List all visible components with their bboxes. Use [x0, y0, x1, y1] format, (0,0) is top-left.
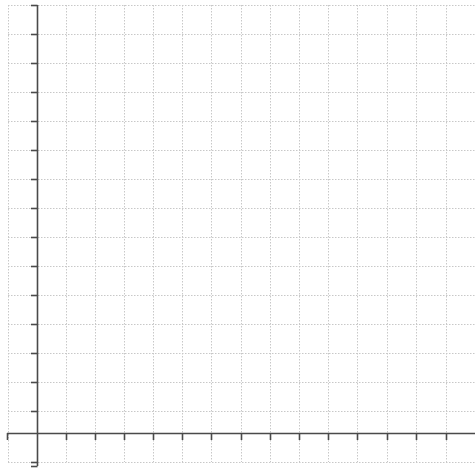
grid-lines	[8, 5, 475, 463]
coordinate-grid	[0, 0, 475, 476]
